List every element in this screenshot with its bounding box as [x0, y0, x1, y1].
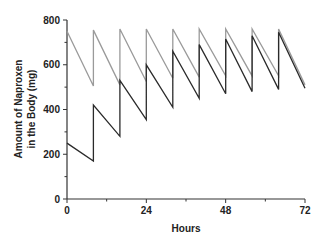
- y-tick-label: 200: [43, 149, 60, 160]
- naproxen-chart: Amount of Naproxen in the Body (mg) 0200…: [0, 0, 328, 242]
- y-tick-label: 800: [43, 15, 60, 26]
- series-line-2: [67, 32, 305, 161]
- x-tick-label: 24: [141, 205, 153, 216]
- x-tick-label: 0: [64, 205, 70, 216]
- x-tick-label: 48: [220, 205, 232, 216]
- y-axis-title-line-1: Amount of Naproxen: [13, 60, 24, 159]
- x-axis-title: Hours: [172, 223, 201, 234]
- series-group: [67, 29, 305, 161]
- axes: 02004006008000244872: [43, 15, 311, 217]
- series-line-1: [67, 29, 305, 86]
- y-tick-label: 0: [54, 194, 60, 205]
- y-tick-label: 600: [43, 59, 60, 70]
- y-axis-title: Amount of Naproxen in the Body (mg): [13, 60, 37, 159]
- x-tick-label: 72: [299, 205, 311, 216]
- y-axis-title-line-2: in the Body (mg): [26, 70, 37, 149]
- y-tick-label: 400: [43, 104, 60, 115]
